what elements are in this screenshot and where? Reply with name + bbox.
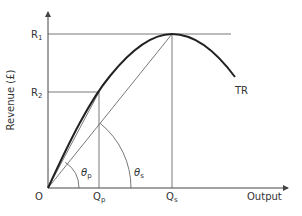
tr-curve bbox=[48, 34, 235, 188]
tr-label: TR bbox=[234, 85, 248, 96]
x-axis-label: Output bbox=[247, 191, 282, 202]
theta-s-label: θs bbox=[134, 167, 144, 180]
revenue-diagram: Revenue (£) R1 R2 O Qp Qs Output TR θp θ… bbox=[0, 0, 302, 216]
theta-p-arc bbox=[65, 162, 79, 188]
qp-label: Qp bbox=[93, 191, 106, 204]
theta-s-arc bbox=[100, 123, 131, 188]
ray-to-sales-point bbox=[48, 34, 172, 188]
y-axis-label: Revenue (£) bbox=[5, 69, 16, 130]
theta-p-label: θp bbox=[81, 167, 92, 180]
r2-label: R2 bbox=[31, 87, 42, 100]
r1-label: R1 bbox=[31, 29, 42, 42]
qs-label: Qs bbox=[166, 191, 178, 204]
origin-label: O bbox=[35, 191, 43, 202]
